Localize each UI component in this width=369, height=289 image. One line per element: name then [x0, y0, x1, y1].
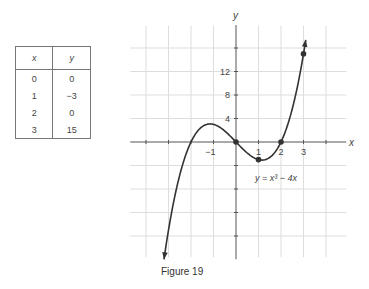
function-graph: −11234812 x y y = x³ − 4x: [0, 0, 369, 289]
data-point: [256, 157, 262, 163]
x-tick-label: 2: [278, 147, 283, 157]
arrowhead-icon: [162, 252, 168, 259]
x-tick-label: 3: [301, 147, 306, 157]
x-axis-label: x: [348, 137, 355, 148]
data-points: [233, 51, 306, 162]
data-point: [233, 139, 239, 145]
arrowhead-icon: [302, 40, 308, 47]
curve-arrow-icons: [162, 40, 307, 259]
curve-line: [164, 40, 306, 259]
figure-caption: Figure 19: [161, 266, 203, 277]
y-tick-label: 12: [220, 67, 230, 77]
x-tick-label: −1: [205, 147, 215, 157]
data-point: [301, 51, 307, 57]
y-tick-label: 4: [225, 114, 230, 124]
data-point: [278, 139, 284, 145]
y-axis-label: y: [232, 10, 239, 21]
equation-label: y = x³ − 4x: [254, 173, 298, 183]
x-tick-label: 1: [256, 147, 261, 157]
y-tick-label: 8: [225, 90, 230, 100]
